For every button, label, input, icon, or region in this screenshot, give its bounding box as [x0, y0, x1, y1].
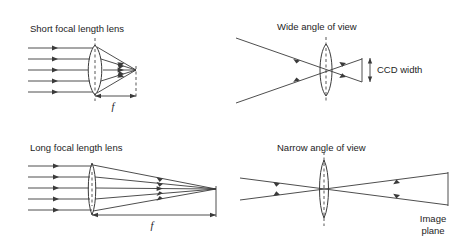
- caption-short-focal-length: Short focal length lens: [30, 23, 124, 34]
- incoming-rays-long: [28, 164, 92, 213]
- optics-diagram: Short focal length lens: [0, 0, 467, 245]
- ccd-width-label: CCD width: [377, 64, 422, 75]
- focal-length-dimension-short: [95, 94, 136, 98]
- caption-narrow-angle: Narrow angle of view: [277, 142, 366, 153]
- caption-long-focal-length: Long focal length lens: [30, 142, 123, 153]
- ccd-width-bracket: [368, 58, 372, 82]
- panel-long-focal-length: Long focal length lens: [28, 142, 216, 231]
- panel-wide-angle: Wide angle of view CCD width: [236, 21, 422, 103]
- focal-length-label-short: f: [112, 101, 117, 112]
- focal-length-label-long: f: [151, 220, 156, 231]
- outgoing-rays-narrow: [393, 180, 400, 199]
- panel-short-focal-length: Short focal length lens: [28, 23, 136, 112]
- incoming-rays-wide: [236, 38, 362, 103]
- converging-rays-short: [97, 47, 136, 93]
- caption-wide-angle: Wide angle of view: [277, 21, 357, 32]
- focal-length-dimension-long: [92, 213, 216, 217]
- image-plane-label-line1: Image: [420, 213, 446, 224]
- panel-narrow-angle: Narrow angle of view Image plane: [240, 142, 448, 236]
- incoming-rays-narrow: [240, 173, 448, 205]
- optics-figure-container: Short focal length lens: [0, 0, 467, 245]
- image-plane-label-line2: plane: [421, 225, 444, 236]
- incoming-rays-short: [28, 46, 93, 95]
- converging-rays-long: [93, 165, 216, 211]
